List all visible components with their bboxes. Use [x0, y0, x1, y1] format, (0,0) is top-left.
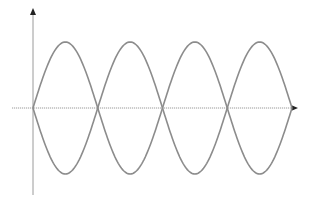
- wave-diagram: [0, 0, 320, 199]
